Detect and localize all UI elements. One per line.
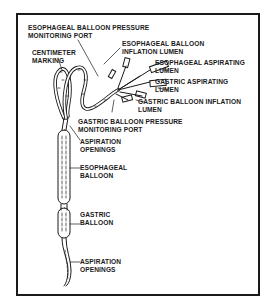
tube-coils (55, 67, 118, 118)
label-esophageal-balloon: ESOPHAGEAL BALLOON (80, 164, 127, 181)
label-gastric-balloon-inflation-lumen: GASTRIC BALLOON INFLATION LUMEN (138, 98, 241, 115)
label-centimeter-marking: CENTIMETER MARKING (32, 49, 76, 66)
label-gastric-balloon: GASTRIC BALLOON (80, 211, 113, 228)
label-gastric-aspirating-lumen: GASTRIC ASPIRATING LUMEN (155, 78, 228, 95)
label-aspiration-openings-lower: ASPIRATION OPENINGS (80, 258, 121, 275)
label-esophageal-balloon-pressure-port: ESOPHAGEAL BALLOON PRESSURE MONITORING P… (28, 24, 149, 41)
label-esophageal-balloon-inflation-lumen: ESOPHAGEAL BALLOON INFLATION LUMEN (122, 40, 204, 57)
label-aspiration-openings-upper: ASPIRATION OPENINGS (80, 138, 121, 155)
main-shaft (58, 118, 71, 286)
esophageal-balloon-shape (58, 130, 70, 204)
label-esophageal-aspirating-lumen: ESOPHAGEAL ASPIRATING LUMEN (155, 59, 245, 76)
label-gastric-balloon-pressure-port: GASTRIC BALLOON PRESSURE MONITORING PORT (78, 118, 183, 135)
gastric-balloon-shape (58, 208, 70, 238)
